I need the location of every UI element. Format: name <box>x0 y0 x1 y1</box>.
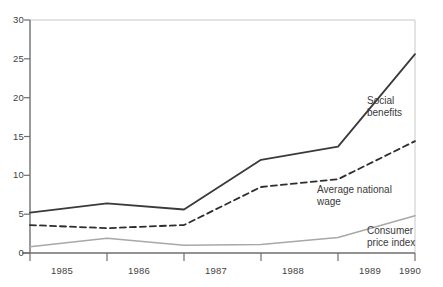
y-tick-label-10: 10 <box>2 169 24 180</box>
series-label-average-national-wage-line2: wage <box>317 196 392 208</box>
series-label-consumer-price-index-line1: Consumer <box>367 225 415 237</box>
y-tick-label-5: 5 <box>2 208 24 219</box>
x-tick-label-1990: 1990 <box>390 265 430 276</box>
x-tick-label-1987: 1987 <box>196 265 236 276</box>
x-tick-label-1989: 1989 <box>350 265 390 276</box>
x-tick-label-1985: 1985 <box>42 265 82 276</box>
y-tick-label-15: 15 <box>2 131 24 142</box>
x-tick-label-1986: 1986 <box>119 265 159 276</box>
y-axis-ticks <box>24 20 30 253</box>
x-tick-label-1988: 1988 <box>273 265 313 276</box>
x-axis-ticks <box>30 253 415 261</box>
series-label-average-national-wage-line1: Average national <box>317 184 392 196</box>
series-line-consumer-price-index <box>30 216 415 247</box>
series-label-social-benefits-line2: benefits <box>367 107 402 119</box>
y-tick-label-25: 25 <box>2 53 24 64</box>
y-tick-label-0: 0 <box>2 247 24 258</box>
series-label-consumer-price-index-line2: price index <box>367 237 415 249</box>
series-label-social-benefits: Social benefits <box>367 95 402 118</box>
series-label-social-benefits-line1: Social <box>367 95 402 107</box>
line-chart: 30 25 20 15 10 5 0 1985 1986 1987 1988 1… <box>0 0 443 287</box>
y-tick-label-30: 30 <box>2 14 24 25</box>
series-label-consumer-price-index: Consumer price index <box>367 225 415 248</box>
y-tick-label-20: 20 <box>2 92 24 103</box>
series-label-average-national-wage: Average national wage <box>317 184 392 207</box>
data-series-layer <box>30 54 415 247</box>
